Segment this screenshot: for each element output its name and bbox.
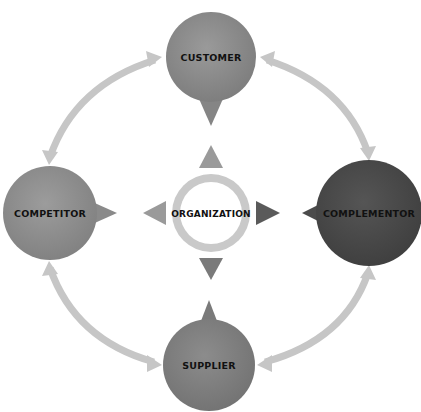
organization-label: ORGANIZATION xyxy=(171,209,251,219)
org-pointer-left-icon xyxy=(143,201,166,225)
node-supplier[interactable]: SUPPLIER xyxy=(163,300,255,411)
node-organization[interactable]: ORGANIZATION xyxy=(143,145,280,280)
supplier-label: SUPPLIER xyxy=(182,360,236,371)
arrowhead-icon xyxy=(360,146,376,161)
connector-complementor-supplier xyxy=(265,273,368,362)
org-pointer-right-icon xyxy=(256,201,280,225)
connector-customer-complementor xyxy=(267,60,368,153)
connector-customer-competitor xyxy=(50,60,155,157)
customer-label: CUSTOMER xyxy=(181,52,242,63)
arrowhead-icon xyxy=(360,265,376,280)
org-pointer-up-icon xyxy=(199,145,223,168)
arrowhead-icon xyxy=(42,150,58,165)
org-pointer-down-icon xyxy=(199,258,223,280)
node-competitor[interactable]: COMPETITOR xyxy=(3,166,117,260)
arrowhead-icon xyxy=(147,355,162,372)
competitor-label: COMPETITOR xyxy=(14,208,86,219)
complementor-label: COMPLEMENTOR xyxy=(323,208,416,219)
arrowhead-icon xyxy=(257,355,272,372)
arrowhead-icon xyxy=(42,261,58,276)
value-net-diagram: CUSTOMER COMPETITOR COMPLEMENTOR SUPPLIE… xyxy=(0,0,421,412)
node-customer[interactable]: CUSTOMER xyxy=(166,12,256,126)
node-complementor[interactable]: COMPLEMENTOR xyxy=(302,160,421,266)
connector-competitor-supplier xyxy=(50,268,154,362)
